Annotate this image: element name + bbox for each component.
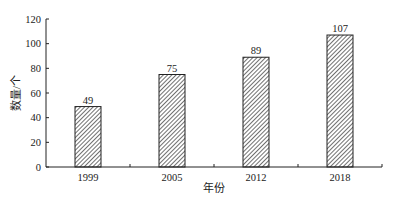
x-axis-label: 年份	[203, 181, 225, 194]
bar-1999	[75, 107, 101, 167]
bar-2018	[327, 35, 353, 167]
x-tick-label: 2005	[162, 172, 183, 183]
y-axis-label: 数量/个	[10, 75, 22, 111]
y-tick-label: 120	[25, 14, 41, 25]
x-tick-label: 1999	[78, 172, 99, 183]
bar-chart: 020406080100120 497589107 19992005201220…	[0, 0, 396, 203]
y-axis-ticks: 020406080100120	[25, 14, 49, 173]
y-tick-label: 80	[31, 63, 42, 74]
x-tick-label: 2012	[246, 172, 267, 183]
bar-value-label: 49	[83, 95, 94, 106]
bar-value-label: 75	[167, 63, 178, 74]
y-tick-label: 100	[25, 38, 41, 49]
x-tick-label: 2018	[330, 172, 351, 183]
bar-2012	[243, 57, 269, 167]
bar-value-label: 89	[251, 45, 262, 56]
y-tick-label: 60	[31, 88, 42, 99]
bar-value-label: 107	[332, 23, 348, 34]
y-tick-label: 40	[31, 112, 42, 123]
y-tick-label: 20	[31, 137, 42, 148]
y-tick-label: 0	[36, 162, 41, 173]
bar-2005	[159, 75, 185, 168]
bars: 497589107	[75, 23, 353, 167]
